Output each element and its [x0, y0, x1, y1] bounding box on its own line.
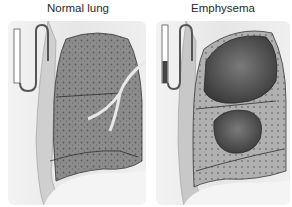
emphysema-lung-illustration — [156, 21, 290, 205]
normal-lung-title: Normal lung — [8, 2, 148, 14]
normal-lung-illustration — [8, 21, 146, 205]
emphysema-title: Emphysema — [154, 2, 292, 14]
normal-lung-panel — [8, 21, 146, 205]
emphysema-panel — [156, 21, 290, 205]
